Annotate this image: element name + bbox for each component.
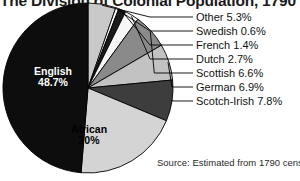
legend-label-german: German 6.9% [196, 81, 264, 93]
legend-label-dutch: Dutch 2.7% [196, 53, 253, 65]
legend-label-other: Other 5.3% [196, 11, 252, 23]
legend-label-scottish: Scottish 6.6% [196, 67, 263, 79]
legend-label-french: French 1.4% [196, 39, 258, 51]
chart-canvas: The Division of Colonial Population, 179… [0, 0, 300, 181]
slice-label-african-value: 20% [52, 135, 126, 146]
source-note: Source: Estimated from 1790 census [157, 157, 300, 168]
slice-label-african: African 20% [52, 124, 126, 146]
slice-label-english: English 48.7% [14, 66, 92, 88]
pie-slices [3, 3, 173, 173]
legend-label-swedish: Swedish 0.6% [196, 25, 266, 37]
legend-label-scotch-irish: Scotch-Irish 7.8% [196, 95, 282, 107]
slice-label-english-value: 48.7% [14, 77, 92, 88]
